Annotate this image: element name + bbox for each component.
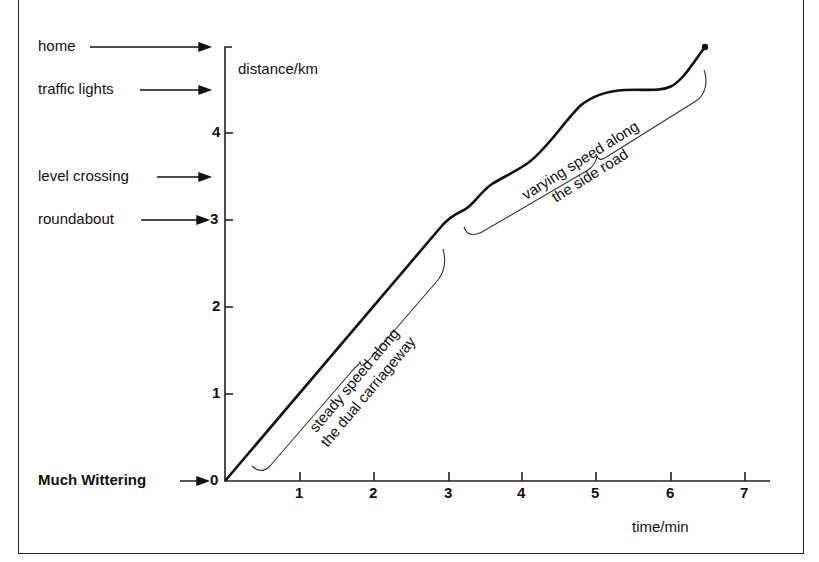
- label-level-crossing: level crossing: [38, 167, 129, 184]
- label-home: home: [38, 37, 76, 54]
- axes: [225, 47, 770, 481]
- x-tick-7: 7: [740, 484, 748, 501]
- x-tick-2: 2: [369, 484, 377, 501]
- x-tick-6: 6: [666, 484, 674, 501]
- y-tick-1: 1: [212, 384, 220, 401]
- y-tick-2: 2: [212, 297, 220, 314]
- steady-brace: [252, 249, 445, 471]
- x-tick-1: 1: [295, 484, 303, 501]
- label-traffic-lights: traffic lights: [38, 80, 114, 97]
- y-tick-0: 0: [210, 471, 218, 488]
- x-axis-label: time/min: [632, 518, 689, 535]
- label-roundabout: roundabout: [38, 210, 114, 227]
- journey-line: [225, 47, 705, 481]
- y-tick-4: 4: [212, 123, 220, 140]
- x-tick-5: 5: [591, 484, 599, 501]
- y-tick-3: 3: [210, 210, 218, 227]
- x-tick-3: 3: [444, 484, 452, 501]
- label-much-wittering: Much Wittering: [38, 471, 146, 488]
- y-axis-label: distance/km: [238, 60, 318, 77]
- x-tick-4: 4: [517, 484, 525, 501]
- end-point: [702, 44, 708, 50]
